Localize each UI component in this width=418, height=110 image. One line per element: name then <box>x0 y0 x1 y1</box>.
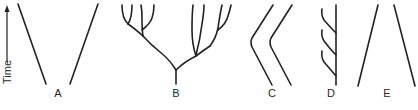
panel-a: A <box>18 4 98 99</box>
panel-b-label: B <box>172 87 179 99</box>
evolution-patterns-diagram: Time A B <box>0 0 418 110</box>
panel-e: E <box>358 5 415 99</box>
panel-a-label: A <box>54 87 62 99</box>
arrow-up-icon <box>5 5 10 12</box>
diagram-svg: Time A B <box>0 0 418 110</box>
panel-c-label: C <box>268 87 276 99</box>
panel-c: C <box>251 5 292 99</box>
panel-d: D <box>322 5 336 99</box>
panel-d-label: D <box>327 87 335 99</box>
time-axis: Time <box>1 5 13 84</box>
panel-b: B <box>122 5 231 99</box>
panel-e-label: E <box>383 87 390 99</box>
time-axis-label: Time <box>1 60 13 84</box>
